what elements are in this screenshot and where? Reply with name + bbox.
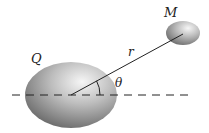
label-r: r — [128, 46, 134, 58]
label-Q: Q — [31, 52, 42, 65]
diagram-canvas — [0, 0, 209, 133]
label-M: M — [164, 6, 177, 19]
small-body-M — [166, 21, 200, 45]
label-theta: θ — [115, 77, 122, 89]
